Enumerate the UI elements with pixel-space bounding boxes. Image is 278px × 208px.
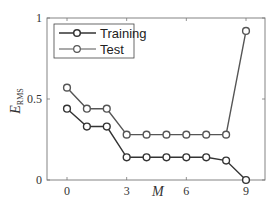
y-tick-label: 0 [36, 173, 42, 187]
x-tick-label: 3 [124, 184, 130, 198]
data-point-marker [243, 28, 250, 35]
x-tick-label: 9 [243, 184, 249, 198]
y-axis-label: ERMS [8, 88, 25, 114]
data-point-marker [64, 84, 71, 91]
chart: 036900.51 Training Test M ERMS [0, 0, 278, 208]
data-point-marker [83, 105, 90, 112]
x-tick-label: 6 [183, 184, 189, 198]
circle-marker-icon [74, 46, 81, 53]
circle-marker-icon [74, 30, 81, 37]
y-tick-label: 1 [36, 11, 42, 25]
data-point-marker [123, 131, 130, 138]
data-point-marker [83, 123, 90, 130]
data-point-marker [143, 154, 150, 161]
data-point-marker [203, 154, 210, 161]
y-axis-label-sub: RMS [16, 88, 25, 105]
legend-label: Test [100, 42, 124, 57]
x-tick-label: 0 [64, 184, 70, 198]
data-point-marker [223, 157, 230, 164]
data-point-marker [123, 154, 130, 161]
data-point-marker [163, 154, 170, 161]
data-point-marker [203, 131, 210, 138]
data-point-marker [183, 131, 190, 138]
y-axis-label-main: E [8, 105, 23, 115]
x-axis-label: M [151, 184, 165, 199]
legend: Training Test [54, 24, 146, 58]
data-point-marker [103, 123, 110, 130]
y-tick-label: 0.5 [27, 92, 42, 106]
data-point-marker [64, 105, 71, 112]
svg-text:ERMS: ERMS [8, 88, 25, 114]
data-point-marker [243, 177, 250, 184]
series-training [64, 105, 250, 183]
data-point-marker [163, 131, 170, 138]
series-line [67, 109, 246, 180]
data-point-marker [143, 131, 150, 138]
data-point-marker [223, 131, 230, 138]
legend-label: Training [100, 26, 146, 41]
data-point-marker [183, 154, 190, 161]
data-point-marker [103, 105, 110, 112]
